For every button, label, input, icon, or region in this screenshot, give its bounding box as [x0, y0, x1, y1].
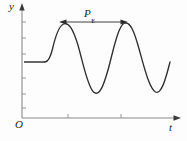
origin-label: O — [15, 119, 23, 130]
y-axis-label: y — [9, 1, 14, 12]
x-axis — [22, 114, 181, 121]
period-label: PE — [84, 4, 95, 23]
y-axis-arrowhead — [19, 3, 24, 11]
x-axis-label: t — [169, 122, 172, 133]
waveform-curve — [45, 23, 170, 93]
waveform-figure: y t O PE — [0, 0, 187, 141]
x-axis-arrowhead — [174, 115, 182, 120]
period-symbol: P — [84, 7, 91, 19]
period-subscript: E — [91, 17, 95, 24]
y-axis — [19, 3, 26, 118]
